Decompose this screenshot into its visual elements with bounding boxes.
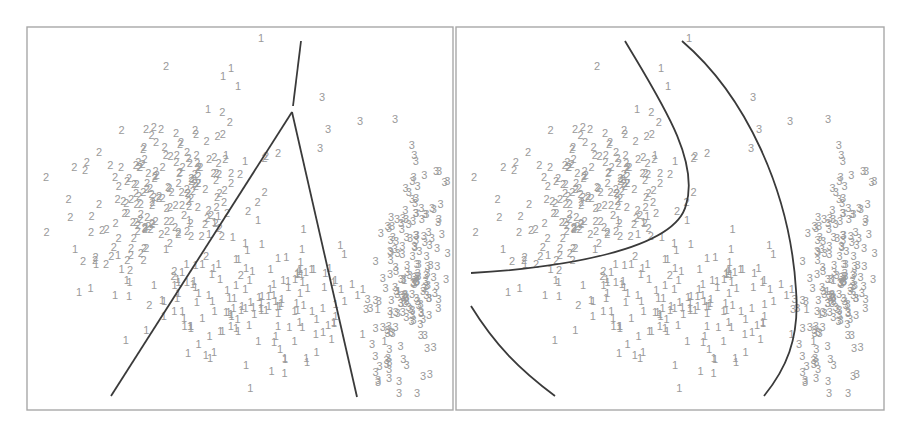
class-label-3: 3 xyxy=(825,375,831,387)
class-label-1: 1 xyxy=(695,300,701,312)
class-label-2: 2 xyxy=(633,212,639,224)
class-label-1: 1 xyxy=(505,286,511,298)
class-label-1: 1 xyxy=(688,238,694,250)
class-label-2: 2 xyxy=(582,165,588,177)
class-label-2: 2 xyxy=(631,183,637,195)
class-label-1: 1 xyxy=(119,263,125,275)
class-label-3: 3 xyxy=(866,228,872,240)
class-label-1: 1 xyxy=(668,300,674,312)
class-label-1: 1 xyxy=(163,243,169,255)
class-label-1: 1 xyxy=(115,249,121,261)
class-label-3: 3 xyxy=(858,203,864,215)
class-label-1: 1 xyxy=(749,302,755,314)
class-label-2: 2 xyxy=(621,124,627,136)
class-label-1: 1 xyxy=(259,290,265,302)
class-label-1: 1 xyxy=(282,367,288,379)
class-label-1: 1 xyxy=(242,283,248,295)
class-label-3: 3 xyxy=(420,370,426,382)
class-label-1: 1 xyxy=(704,252,710,264)
class-label-2: 2 xyxy=(526,198,532,210)
class-label-2: 2 xyxy=(602,156,608,168)
class-label-3: 3 xyxy=(790,303,796,315)
class-label-1: 1 xyxy=(556,290,562,302)
class-label-3: 3 xyxy=(838,240,844,252)
class-label-1: 1 xyxy=(186,214,192,226)
class-label-2: 2 xyxy=(43,171,49,183)
class-label-3: 3 xyxy=(388,326,394,338)
class-label-3: 3 xyxy=(820,265,826,277)
class-label-3: 3 xyxy=(399,248,405,260)
class-label-2: 2 xyxy=(175,226,181,238)
class-label-1: 1 xyxy=(196,338,202,350)
class-label-1: 1 xyxy=(88,282,94,294)
class-label-1: 1 xyxy=(215,210,221,222)
class-label-1: 1 xyxy=(672,262,678,274)
class-label-2: 2 xyxy=(108,250,114,262)
class-label-1: 1 xyxy=(220,70,226,82)
class-label-1: 1 xyxy=(635,228,641,240)
class-label-2: 2 xyxy=(545,180,551,192)
class-label-1: 1 xyxy=(616,347,622,359)
class-label-3: 3 xyxy=(848,169,854,181)
class-label-1: 1 xyxy=(762,298,768,310)
class-label-2: 2 xyxy=(587,123,593,135)
class-label-1: 1 xyxy=(297,316,303,328)
class-label-2: 2 xyxy=(624,170,630,182)
class-label-3: 3 xyxy=(438,198,444,210)
class-label-1: 1 xyxy=(767,283,773,295)
class-label-3: 3 xyxy=(387,305,393,317)
class-label-2: 2 xyxy=(107,159,113,171)
class-label-2: 2 xyxy=(577,223,583,235)
class-label-2: 2 xyxy=(644,157,650,169)
class-label-3: 3 xyxy=(372,322,378,334)
class-label-1: 1 xyxy=(300,223,306,235)
class-label-1: 1 xyxy=(592,243,598,255)
class-label-2: 2 xyxy=(548,124,554,136)
class-label-2: 2 xyxy=(120,195,126,207)
class-label-3: 3 xyxy=(325,123,331,135)
class-label-3: 3 xyxy=(392,113,398,125)
class-label-1: 1 xyxy=(708,293,714,305)
class-label-2: 2 xyxy=(657,177,663,189)
class-label-2: 2 xyxy=(163,60,169,72)
class-label-2: 2 xyxy=(116,232,122,244)
class-label-3: 3 xyxy=(814,245,820,257)
class-label-1: 1 xyxy=(739,263,745,275)
class-label-1: 1 xyxy=(275,320,281,332)
class-label-3: 3 xyxy=(430,271,436,283)
class-label-1: 1 xyxy=(770,248,776,260)
class-label-1: 1 xyxy=(185,347,191,359)
class-label-1: 1 xyxy=(652,149,658,161)
class-label-3: 3 xyxy=(840,155,846,167)
class-label-3: 3 xyxy=(827,353,833,365)
class-label-2: 2 xyxy=(602,199,608,211)
class-label-1: 1 xyxy=(714,275,720,287)
class-label-2: 2 xyxy=(275,147,281,159)
class-label-3: 3 xyxy=(800,255,806,267)
class-label-3: 3 xyxy=(787,115,793,127)
class-label-2: 2 xyxy=(88,226,94,238)
class-label-2: 2 xyxy=(206,153,212,165)
class-label-2: 2 xyxy=(547,161,553,173)
class-label-3: 3 xyxy=(424,342,430,354)
class-label-2: 2 xyxy=(195,201,201,213)
class-label-1: 1 xyxy=(275,252,281,264)
class-label-1: 1 xyxy=(291,335,297,347)
class-label-3: 3 xyxy=(369,338,375,350)
class-label-2: 2 xyxy=(202,183,208,195)
class-label-1: 1 xyxy=(742,346,748,358)
class-label-1: 1 xyxy=(623,296,629,308)
class-label-2: 2 xyxy=(557,193,563,205)
class-label-2: 2 xyxy=(215,157,221,169)
class-label-3: 3 xyxy=(397,340,403,352)
class-label-1: 1 xyxy=(665,80,671,92)
class-label-1: 1 xyxy=(552,334,558,346)
class-label-2: 2 xyxy=(66,193,72,205)
class-label-1: 1 xyxy=(688,290,694,302)
class-label-2: 2 xyxy=(184,183,190,195)
class-label-3: 3 xyxy=(840,207,846,219)
class-label-3: 3 xyxy=(427,368,433,380)
class-label-2: 2 xyxy=(471,171,477,183)
class-label-3: 3 xyxy=(363,303,369,315)
class-label-2: 2 xyxy=(555,172,561,184)
